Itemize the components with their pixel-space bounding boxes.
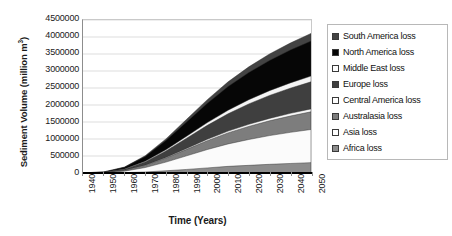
legend-swatch [332,113,339,120]
x-axis-tick-mark [124,172,125,176]
x-axis-tick-label: 1960 [128,174,140,208]
legend-item-label: South America loss [343,32,416,41]
x-axis-tick-label: 2050 [316,174,328,208]
x-axis-tick-label: 2030 [274,174,286,208]
legend-swatch [332,81,339,88]
x-axis-tick-mark [82,172,83,176]
x-axis-tick-mark [270,172,271,176]
chart-figure: Sediment Volume (million m3) 45000004000… [0,0,452,236]
y-axis-tick-label: 3500000 [24,48,79,57]
y-axis-tick-label: 2000000 [24,100,79,109]
y-axis-title-superscript: 3 [17,40,24,44]
y-axis-tick-label: 3000000 [24,65,79,74]
x-axis-tick-mark [187,172,188,176]
x-axis-tick-labels: 1940195019601970198019902000201020202030… [0,176,452,210]
legend-item[interactable]: North America loss [332,44,444,60]
stacked-area-series-group [83,20,311,173]
chart-legend: South America lossNorth America lossMidd… [327,24,448,160]
y-axis-tick-label: 2500000 [24,82,79,91]
legend-item[interactable]: Europe loss [332,76,444,92]
legend-item-label: Europe loss [343,80,388,89]
x-axis-tick-label: 2020 [253,174,265,208]
legend-item-label: Middle East loss [343,64,405,73]
legend-item[interactable]: Africa loss [332,140,444,156]
x-axis-tick-mark [166,172,167,176]
legend-swatch [332,97,339,104]
x-axis-tick-label: 1970 [149,174,161,208]
x-axis-tick-label: 2040 [295,174,307,208]
legend-item[interactable]: Central America loss [332,92,444,108]
legend-item[interactable]: South America loss [332,28,444,44]
legend-swatch [332,49,339,56]
legend-item-label: Africa loss [343,144,382,153]
x-axis-tick-label: 1950 [107,174,119,208]
legend-item-label: Australasia loss [343,112,402,121]
y-axis-tick-label: 4500000 [24,14,79,23]
x-axis-tick-mark [207,172,208,176]
legend-item[interactable]: Asia loss [332,124,444,140]
x-axis-tick-mark [291,172,292,176]
x-axis-title: Time (Years) [82,215,313,226]
legend-swatch [332,129,339,136]
x-axis-tick-mark [103,172,104,176]
y-axis-tick-label: 500000 [24,151,79,160]
x-axis-tick-label: 2000 [211,174,223,208]
x-axis-tick-label: 1980 [170,174,182,208]
x-axis-tick-mark [228,172,229,176]
legend-swatch [332,145,339,152]
legend-swatch [332,33,339,40]
legend-item-label: Central America loss [343,96,421,105]
legend-item-label: Asia loss [343,128,377,137]
y-axis-tick-label: 4000000 [24,31,79,40]
y-axis-tick-label: 1000000 [24,134,79,143]
x-axis-tick-label: 1990 [191,174,203,208]
x-axis-tick-label: 1940 [86,174,98,208]
legend-swatch [332,65,339,72]
x-axis-tick-label: 2010 [232,174,244,208]
x-axis-tick-mark [312,172,313,176]
legend-item[interactable]: Australasia loss [332,108,444,124]
x-axis-tick-mark [249,172,250,176]
plot-area [82,19,312,173]
legend-item-label: North America loss [343,48,414,57]
legend-item[interactable]: Middle East loss [332,60,444,76]
x-axis-tick-mark [145,172,146,176]
y-axis-tick-label: 1500000 [24,117,79,126]
